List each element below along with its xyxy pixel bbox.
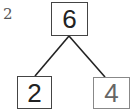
node-top-value: 6 [62,6,76,32]
node-left-value: 2 [27,80,41,106]
node-left: 2 [17,76,52,109]
edge-top-right [69,36,105,77]
node-right: 4 [93,77,130,109]
node-right-value: 4 [104,80,118,106]
node-top: 6 [51,2,88,36]
edge-top-left [35,36,69,76]
